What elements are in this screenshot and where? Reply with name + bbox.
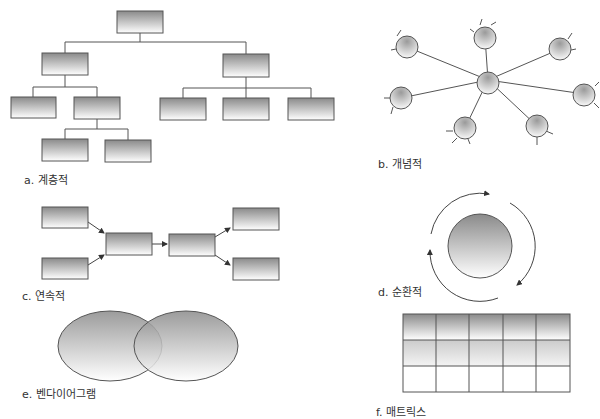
concept-node: [526, 115, 548, 137]
venn-diagram: [58, 311, 238, 381]
hierarchy-node-box: [223, 54, 269, 77]
hierarchy-node-box: [42, 53, 88, 75]
label-hierarchical: a. 계층적: [24, 171, 68, 187]
diagram-types-figure: [0, 0, 600, 419]
hierarchy-node-box: [11, 97, 56, 118]
hierarchical-diagram: [33, 33, 311, 140]
cycle-center-circle: [448, 214, 512, 278]
sequence-box: [106, 233, 152, 255]
concept-node: [549, 38, 571, 60]
concept-node: [573, 84, 595, 106]
concept-node: [474, 27, 496, 49]
sequence-box: [233, 208, 279, 230]
hierarchy-node-box: [105, 140, 151, 162]
sequence-box: [169, 234, 215, 256]
hierarchy-node-box: [42, 139, 88, 161]
label-venn: e. 벤다이어그램: [22, 385, 96, 401]
matrix-diagram: [403, 314, 570, 392]
concept-node: [396, 36, 418, 58]
hierarchy-node-box: [223, 98, 269, 120]
label-matrix: f. 매트릭스: [376, 403, 426, 419]
sequence-box: [42, 258, 88, 279]
concept-hub-node: [477, 72, 499, 94]
concept-node: [390, 87, 412, 109]
hierarchy-node-box: [74, 97, 120, 119]
sequence-box: [42, 207, 88, 228]
sequence-box: [233, 258, 279, 280]
label-conceptual: b. 개념적: [378, 155, 422, 171]
hierarchy-node-box: [288, 98, 334, 120]
circular-diagram: [430, 193, 535, 301]
venn-set-right: [134, 311, 238, 381]
label-circular: d. 순환적: [378, 283, 422, 299]
hierarchy-node-box: [160, 98, 206, 120]
concept-node: [454, 117, 476, 139]
label-sequential: c. 연속적: [22, 287, 65, 303]
hierarchy-root-box: [117, 11, 163, 33]
